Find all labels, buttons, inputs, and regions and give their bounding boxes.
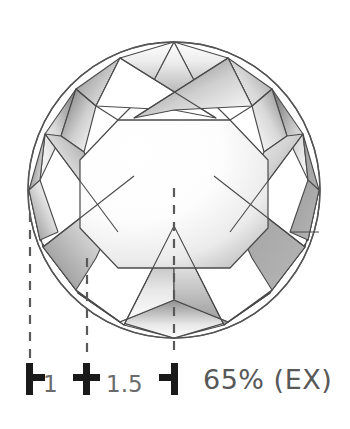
tick-end-icon — [159, 363, 178, 395]
diamond-illustration — [0, 0, 350, 429]
tick-mid-icon — [73, 363, 100, 395]
measurement-ticks — [26, 363, 178, 395]
diamond-proportion-figure: 1 1.5 65% (EX) — [0, 0, 350, 429]
tick-start-icon — [26, 363, 45, 395]
